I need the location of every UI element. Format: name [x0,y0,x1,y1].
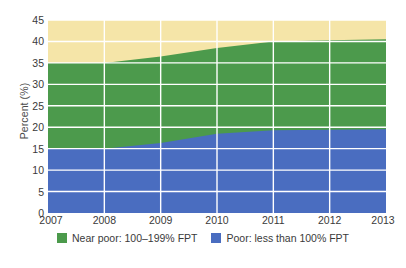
y-tick-label: 20 [18,122,44,133]
x-tick-label: 2010 [205,215,228,226]
legend-swatch-near-poor [57,233,67,243]
legend-item[interactable]: Poor: less than 100% FPT [211,232,349,244]
legend-label: Near poor: 100–199% FPT [72,232,198,244]
x-tick-label: 2012 [318,215,341,226]
y-tick-label: 30 [18,79,44,90]
x-tick-label: 2011 [262,215,285,226]
y-tick-label: 35 [18,58,44,69]
legend-swatch-poor [211,233,221,243]
x-tick-label: 2008 [93,215,116,226]
y-tick-label: 10 [18,165,44,176]
y-tick-label: 45 [18,15,44,26]
legend-item[interactable]: Near poor: 100–199% FPT [57,232,198,244]
y-tick-label: 5 [18,186,44,197]
area-chart: Percent (%) 051015202530354045 200720082… [0,0,406,268]
legend-label: Poor: less than 100% FPT [226,232,349,244]
x-tick-label: 2009 [149,215,172,226]
x-tick-label: 2007 [39,215,62,226]
y-tick-label: 40 [18,36,44,47]
y-tick-label: 15 [18,143,44,154]
chart-legend: Near poor: 100–199% FPTPoor: less than 1… [0,232,406,244]
x-axis-tick-labels: 2007200820092010201120122013 [0,215,406,231]
y-tick-label: 25 [18,101,44,112]
x-tick-label: 2013 [371,215,394,226]
plot-svg [48,20,386,213]
plot-area [48,20,386,213]
